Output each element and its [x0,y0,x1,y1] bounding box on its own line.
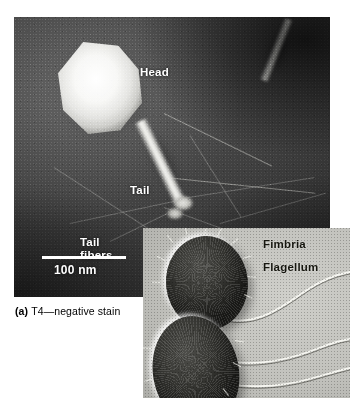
label-flagellum: Flagellum [263,261,318,273]
figure-plate: Head Tail Tail fibers 100 nm [0,0,357,410]
inset-panel-bacteria: Fimbria Flagellum [143,228,350,398]
inset-film-grain [143,228,350,398]
caption-tag: (a) [15,305,28,317]
label-tail: Tail [130,184,150,197]
label-tail-fibers-line1: Tail [80,236,100,249]
label-fimbria: Fimbria [263,238,306,250]
label-head: Head [140,66,169,79]
caption-text: T4—negative stain [31,305,120,317]
scale-bar-label: 100 nm [54,263,97,277]
scale-bar [42,256,126,259]
figure-caption: (a) T4—negative stain [15,305,120,317]
